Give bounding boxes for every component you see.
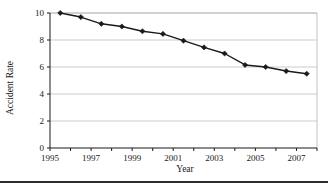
data-point-marker	[119, 24, 124, 29]
data-point-marker	[78, 14, 83, 19]
line-chart: 0246810 1995199719992001200320052007 Acc…	[0, 0, 328, 176]
plot-border	[50, 13, 317, 148]
data-point-marker	[222, 51, 227, 56]
y-axis	[47, 13, 50, 148]
y-axis-title: Accident Rate	[5, 61, 15, 115]
chart-plot-container: 0246810 1995199719992001200320052007 Acc…	[0, 0, 328, 176]
x-tick-label: 1999	[123, 153, 142, 163]
data-point-marker	[140, 29, 145, 34]
x-tick-label: 1995	[41, 153, 60, 163]
data-point-marker	[304, 71, 309, 76]
data-series-markers	[58, 10, 310, 76]
gridlines-group	[50, 13, 317, 121]
y-tick-label: 2	[40, 116, 45, 126]
x-tick-label: 2001	[164, 153, 182, 163]
data-point-marker	[160, 31, 165, 36]
data-point-marker	[201, 45, 206, 50]
chart-figure: 0246810 1995199719992001200320052007 Acc…	[0, 0, 328, 192]
x-tick-label: 2005	[246, 153, 265, 163]
x-tick-label: 1997	[82, 153, 101, 163]
y-tick-label: 10	[35, 8, 45, 18]
y-tick-label: 4	[40, 89, 45, 99]
data-point-marker	[58, 10, 63, 15]
figure-bottom-rule	[0, 181, 328, 183]
y-tick-label: 8	[40, 35, 45, 45]
x-tick-label: 2003	[205, 153, 224, 163]
y-tick-label: 0	[40, 143, 45, 153]
x-axis-title: Year	[176, 164, 194, 174]
x-tick-label: 2007	[287, 153, 306, 163]
y-tick-label: 6	[40, 62, 45, 72]
data-point-marker	[181, 38, 186, 43]
x-tick-labels: 1995199719992001200320052007	[41, 153, 306, 163]
data-point-marker	[284, 68, 289, 73]
data-point-marker	[263, 64, 268, 69]
x-axis	[50, 148, 317, 151]
y-tick-labels: 0246810	[35, 8, 45, 153]
data-point-marker	[99, 21, 104, 26]
